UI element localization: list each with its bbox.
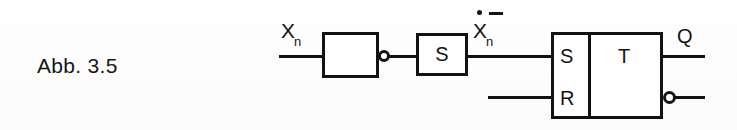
q-output-label: Q [677,26,693,46]
inverter-to-s-wire [389,55,417,58]
derivative-dot-icon [477,10,482,15]
flipflop-reset-input-label: R [560,88,574,108]
input-signal-subscript: n [294,34,301,49]
q-output-wire [663,55,705,58]
reset-input-wire [488,96,553,99]
figure-root: Abb. 3.5 Xn S Xn S R T Q [0,0,737,130]
input-signal-label: Xn [281,20,302,44]
input-wire [279,55,324,58]
intermediate-signal-subscript: n [486,34,493,49]
intermediate-signal-label: Xn [473,20,494,44]
flipflop-set-input-label: S [560,46,573,66]
s-to-flipflop-wire [468,55,553,58]
flipflop-toggle-label: T [618,46,630,66]
intermediate-signal-base: X [473,19,487,42]
flipflop-inner-divider [588,32,591,119]
s-block-label: S [416,33,468,76]
negation-bar-icon [489,12,503,15]
q-not-output-wire [675,96,705,99]
input-signal-base: X [281,19,295,42]
inverter-block-label [322,32,379,78]
figure-caption: Abb. 3.5 [37,55,118,76]
